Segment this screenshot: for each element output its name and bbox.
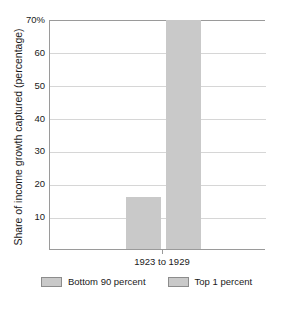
legend-swatch-icon [41, 277, 62, 287]
y-axis-tick-label: 20 [0, 179, 45, 189]
legend-label: Bottom 90 percent [68, 276, 146, 287]
y-axis-tick-label: 40 [0, 114, 45, 124]
legend-item-bottom-90-percent[interactable]: Bottom 90 percent [41, 276, 146, 287]
y-axis-tick-label: 60 [0, 48, 45, 58]
bar[interactable] [166, 20, 201, 250]
x-axis-tick-mark [162, 250, 163, 254]
gridline [50, 185, 266, 186]
x-axis-line [49, 249, 265, 250]
y-axis-tick-label: 30 [0, 146, 45, 156]
gridline [50, 53, 266, 54]
gridline [50, 152, 266, 153]
chart-legend: Bottom 90 percent Top 1 percent [0, 276, 293, 287]
x-axis-category-label: 1923 to 1929 [102, 256, 222, 268]
legend-item-top-1-percent[interactable]: Top 1 percent [168, 276, 253, 287]
y-axis-tick-label: 10 [0, 212, 45, 222]
gridline [50, 119, 266, 120]
plot-area [49, 20, 265, 250]
legend-label: Top 1 percent [195, 276, 253, 287]
y-axis-tick-label: 70% [0, 15, 45, 25]
gridline [50, 86, 266, 87]
bar-chart-figure: Share of income growth captured (percent… [0, 0, 293, 309]
y-axis-tick-label: 50 [0, 81, 45, 91]
bar[interactable] [126, 197, 161, 250]
legend-swatch-icon [168, 277, 189, 287]
